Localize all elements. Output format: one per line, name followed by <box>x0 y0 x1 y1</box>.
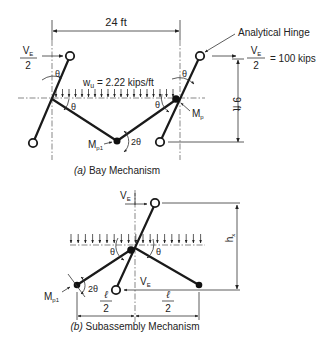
svg-text:VE: VE <box>120 190 131 202</box>
distributed-load <box>56 89 173 97</box>
svg-text:2: 2 <box>165 303 171 314</box>
svg-text:Mp1: Mp1 <box>88 139 104 151</box>
svg-text:θ: θ <box>71 102 76 112</box>
svg-text:2: 2 <box>103 303 109 314</box>
svg-text:VE: VE <box>140 276 151 288</box>
subassembly-mechanism: VE VE hx θ θ 2θ Mp1 <box>44 190 240 332</box>
svg-text:2: 2 <box>25 60 31 71</box>
sub-bottom-shear: VE <box>124 276 240 290</box>
span-label: 24 ft <box>105 16 126 28</box>
svg-text:θ: θ <box>182 69 187 79</box>
left-beam-segment <box>52 99 117 141</box>
svg-text:θ: θ <box>155 100 160 110</box>
left-top-hinge <box>66 52 74 60</box>
load-label: wu = 2.22 kips/ft <box>82 77 154 89</box>
left-shear-force: VE 2 <box>20 45 63 71</box>
span-dimension: 24 ft <box>52 16 180 40</box>
sub-right-end <box>196 282 203 289</box>
right-plastic-hinge <box>172 95 180 103</box>
sub-distributed-load <box>71 234 201 243</box>
sub-hinge-rotation-line <box>68 274 85 297</box>
svg-text:= 100 kips: = 100 kips <box>270 53 316 64</box>
right-beam-segment <box>117 99 177 141</box>
mp1-label: Mp1 <box>88 139 112 151</box>
caption-a: (a) Bay Mechanism <box>74 165 160 176</box>
svg-text:Mp1: Mp1 <box>44 291 60 303</box>
midspan-plastic-hinge <box>114 138 121 145</box>
sub-column <box>116 204 155 289</box>
right-shear-force: VE 2 = 100 kips <box>212 45 316 71</box>
theta-label: θ <box>55 69 60 79</box>
svg-text:Mp: Mp <box>192 108 204 120</box>
svg-text:ℓ: ℓ <box>165 289 170 300</box>
height-label: 9 ft <box>231 97 242 111</box>
sub-mp1-label: Mp1 <box>44 287 70 303</box>
sub-top-shear: VE <box>120 190 240 205</box>
mp-label: Mp <box>181 103 204 120</box>
caption-b: (b) Subassembly Mechanism <box>71 321 200 332</box>
svg-text:VE: VE <box>23 45 34 57</box>
left-bottom-hinge <box>29 139 37 147</box>
sub-theta-arc-left <box>116 238 124 260</box>
svg-text:ℓ: ℓ <box>103 289 108 300</box>
svg-text:2θ: 2θ <box>88 284 98 294</box>
svg-text:Analytical Hinge: Analytical Hinge <box>238 27 310 38</box>
svg-text:2: 2 <box>253 60 259 71</box>
bay-mechanism: 24 ft wu = 2.22 kips/ft VE 2 <box>18 16 316 176</box>
analytical-hinge-callout: Analytical Hinge <box>205 27 310 52</box>
svg-text:2θ: 2θ <box>131 137 141 147</box>
sub-left-beam <box>77 249 132 285</box>
svg-text:VE: VE <box>251 45 262 57</box>
sub-joint-plastic-hinge <box>127 246 135 254</box>
right-top-hinge <box>196 52 204 60</box>
svg-text:hx: hx <box>224 234 236 243</box>
right-bottom-hinge <box>156 138 164 146</box>
svg-text:θ: θ <box>156 247 161 257</box>
mechanism-figure: 24 ft wu = 2.22 kips/ft VE 2 <box>0 0 334 344</box>
svg-text:θ: θ <box>110 247 115 257</box>
sub-height-dimension: hx <box>224 205 237 289</box>
sub-top-hinge <box>151 199 159 207</box>
sub-bottom-hinge <box>112 286 120 294</box>
